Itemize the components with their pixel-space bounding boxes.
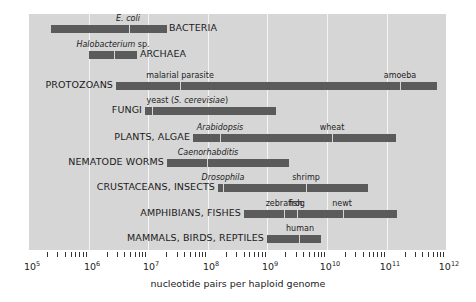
minor-tick <box>265 252 266 257</box>
species-label: E. coli <box>116 14 140 23</box>
minor-tick <box>86 252 87 257</box>
minor-tick <box>314 252 315 257</box>
minor-tick <box>57 252 58 257</box>
group-label: FUNGI <box>112 104 142 115</box>
range-bar-mammals-birds-reptiles <box>267 235 321 243</box>
minor-tick <box>71 252 72 257</box>
species-label: amoeba <box>384 71 417 80</box>
species-label: wheat <box>320 123 345 132</box>
minor-tick <box>363 252 364 257</box>
minor-tick <box>79 252 80 257</box>
group-label: PROTOZOANS <box>45 79 113 90</box>
minor-tick <box>405 252 406 257</box>
species-label: yeast (S. cerevisiae) <box>146 96 228 105</box>
minor-tick <box>145 252 146 257</box>
minor-tick <box>124 252 125 257</box>
minor-tick <box>75 252 76 257</box>
minor-tick <box>195 252 196 257</box>
group-label: NEMATODE WORMS <box>68 156 164 167</box>
species-label: human <box>286 224 314 233</box>
minor-tick <box>428 252 429 257</box>
minor-tick <box>369 252 370 257</box>
x-tick-label: 109 <box>262 260 278 272</box>
species-marker <box>223 184 224 192</box>
minor-tick <box>285 252 286 257</box>
minor-tick <box>117 252 118 257</box>
minor-tick <box>422 252 423 257</box>
gridline <box>89 14 90 250</box>
x-tick-label: 1011 <box>380 260 400 272</box>
minor-tick <box>345 252 346 257</box>
minor-tick <box>254 252 255 257</box>
species-label: shrimp <box>292 173 320 182</box>
x-tick-label: 107 <box>143 260 159 272</box>
group-label: CRUSTACEANS, INSECTS <box>97 181 215 192</box>
species-label: Caenorhabditis <box>178 148 239 157</box>
species-marker <box>343 210 344 218</box>
species-marker <box>152 107 153 115</box>
species-marker <box>306 184 307 192</box>
group-label: MAMMALS, BIRDS, REPTILES <box>127 232 264 243</box>
range-bar-nematode-worms <box>167 159 289 167</box>
minor-tick <box>130 252 131 257</box>
minor-tick <box>437 252 438 257</box>
species-marker <box>400 82 401 90</box>
minor-tick <box>236 252 237 257</box>
minor-tick <box>65 252 66 257</box>
minor-tick <box>415 252 416 257</box>
minor-tick <box>381 252 382 257</box>
minor-tick <box>384 252 385 257</box>
minor-tick <box>249 252 250 257</box>
x-tick-label: 106 <box>84 260 100 272</box>
minor-tick <box>184 252 185 257</box>
minor-tick <box>166 252 167 257</box>
minor-tick <box>440 252 441 257</box>
species-label: Arabidopsis <box>197 123 244 132</box>
minor-tick <box>226 252 227 257</box>
minor-tick <box>262 252 263 257</box>
species-label: newt <box>332 199 352 208</box>
minor-tick <box>318 252 319 257</box>
species-marker <box>284 210 285 218</box>
species-label: malarial parasite <box>146 71 214 80</box>
minor-tick <box>355 252 356 257</box>
species-marker <box>299 235 300 243</box>
x-tick-label: 105 <box>24 260 40 272</box>
species-marker <box>129 25 130 33</box>
species-marker <box>114 51 115 59</box>
minor-tick <box>199 252 200 257</box>
x-tick-label: 1012 <box>439 260 459 272</box>
species-marker <box>220 134 221 142</box>
x-tick-label: 108 <box>203 260 219 272</box>
x-axis-label: nucleotide pairs per haploid genome <box>0 278 476 289</box>
species-marker <box>180 82 181 90</box>
range-bar-archaea <box>89 51 137 59</box>
minor-tick <box>177 252 178 257</box>
range-bar-protozoans <box>116 82 437 90</box>
minor-tick <box>47 252 48 257</box>
genome-size-chart: E. coliBACTERIAHalobacterium sp.ARCHAEAm… <box>0 0 476 302</box>
minor-tick <box>258 252 259 257</box>
range-bar-fungi <box>145 107 276 115</box>
minor-tick <box>373 252 374 257</box>
range-bar-bacteria <box>51 25 167 33</box>
minor-tick <box>433 252 434 257</box>
species-label: frog <box>289 199 305 208</box>
x-tick-label: 1010 <box>320 260 340 272</box>
minor-tick <box>324 252 325 257</box>
range-bar-amphibians-fishes <box>244 210 397 218</box>
minor-tick <box>309 252 310 257</box>
species-marker <box>297 210 298 218</box>
group-label: ARCHAEA <box>140 48 186 59</box>
range-bar-plants-algae <box>193 134 396 142</box>
minor-tick <box>142 252 143 257</box>
minor-tick <box>321 252 322 257</box>
group-label: PLANTS, ALGAE <box>114 131 190 142</box>
minor-tick <box>107 252 108 257</box>
minor-tick <box>303 252 304 257</box>
minor-tick <box>83 252 84 257</box>
species-label: Halobacterium sp. <box>76 40 149 49</box>
minor-tick <box>443 252 444 257</box>
minor-tick <box>139 252 140 257</box>
group-label: BACTERIA <box>169 22 217 33</box>
